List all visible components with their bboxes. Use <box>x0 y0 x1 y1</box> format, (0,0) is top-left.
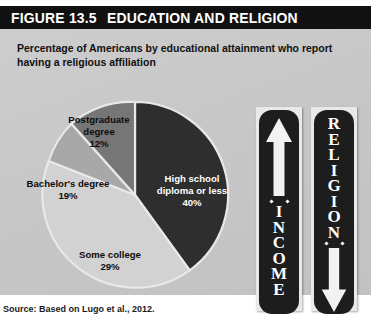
pie-label-high-school: High school diploma or less 40% <box>140 173 244 210</box>
pie-chart: High school diploma or less 40% Postgrad… <box>18 101 252 289</box>
religion-letter: N <box>328 225 340 241</box>
religion-dot-ornaments <box>314 242 354 245</box>
income-plaque: I N C O M E <box>256 107 302 311</box>
pie-label-bachelors: Bachelor's degree 19% <box>10 178 126 202</box>
pie-label-some-college-line1: Some college <box>79 249 141 260</box>
income-plaque-word: I N C O M E <box>271 204 287 297</box>
pie-label-high-school-line2: diploma or less <box>157 185 227 196</box>
diamond-dot-icon <box>269 199 273 203</box>
figure-title-bar: FIGURE 13.5EDUCATION AND RELIGION <box>0 6 371 29</box>
diamond-dot-icon <box>285 199 289 203</box>
diamond-dot-icon <box>340 241 344 245</box>
income-letter: E <box>273 282 284 298</box>
pie-label-some-college-value: 29% <box>100 261 119 272</box>
figure-subtitle: Percentage of Americans by educational a… <box>17 41 347 69</box>
pie-label-high-school-line1: High school <box>165 173 220 184</box>
pie-label-postgraduate-line2: degree <box>83 126 114 137</box>
diamond-dot-icon <box>324 241 328 245</box>
arrow-down-icon <box>319 246 349 314</box>
figure-title: EDUCATION AND RELIGION <box>107 9 298 26</box>
religion-plaque: R E L I G I O N <box>311 107 357 311</box>
page-title: FIGURE 13.5EDUCATION AND RELIGION <box>11 9 298 26</box>
arrow-up-icon <box>264 116 294 198</box>
figure-container: FIGURE 13.5EDUCATION AND RELIGION Percen… <box>0 0 371 328</box>
figure-number: FIGURE 13.5 <box>11 9 97 26</box>
religion-plaque-inner: R E L I G I O N <box>314 110 354 314</box>
religion-plaque-word: R E L I G I O N <box>327 116 340 240</box>
source-note: Source: Based on Lugo et al., 2012. <box>3 304 155 314</box>
figure-panel: Percentage of Americans by educational a… <box>0 29 371 295</box>
pie-label-bachelors-value: 19% <box>58 190 77 201</box>
income-plaque-inner: I N C O M E <box>259 110 299 314</box>
pie-label-bachelors-line1: Bachelor's degree <box>27 178 110 189</box>
pie-label-postgraduate-value: 12% <box>89 138 108 149</box>
pie-label-high-school-value: 40% <box>182 197 201 208</box>
pie-label-postgraduate: Postgraduate degree 12% <box>56 114 142 151</box>
pie-label-some-college: Some college 29% <box>58 249 162 273</box>
pie-label-postgraduate-line1: Postgraduate <box>68 114 129 125</box>
